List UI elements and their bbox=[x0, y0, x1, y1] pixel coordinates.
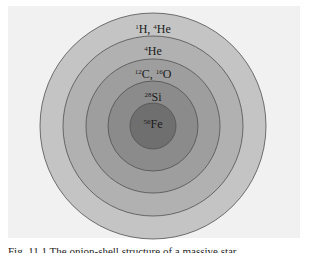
label-he: 4He bbox=[144, 44, 162, 58]
figure-caption: Fig. 11.1 The onion-shell structure of a… bbox=[8, 244, 308, 253]
label-h-he: 1H, 4He bbox=[135, 22, 171, 36]
onion-shell-diagram: 1H, 4He 4He 12C, 16O 28Si 56Fe bbox=[0, 0, 311, 253]
